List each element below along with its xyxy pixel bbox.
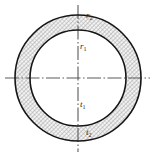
label-inner-radius-subscript: 1	[84, 46, 87, 52]
label-outer-radius-subscript: 2	[90, 15, 93, 21]
label-inner-thickness-subscript: 1	[83, 104, 86, 110]
label-inner-radius: r1	[80, 42, 87, 52]
annulus-wall-hatch	[0, 0, 151, 159]
label-outer-thickness-subscript: 2	[89, 132, 92, 138]
label-inner-radius-base: r	[80, 41, 84, 51]
label-outer-thickness: t2	[86, 128, 92, 138]
annulus-diagram: r2 r1 t1 t2	[0, 0, 151, 159]
label-outer-radius-base: r	[86, 10, 90, 20]
label-inner-thickness: t1	[80, 100, 86, 110]
label-outer-radius: r2	[86, 11, 93, 21]
annulus-diagram-canvas	[0, 0, 151, 159]
